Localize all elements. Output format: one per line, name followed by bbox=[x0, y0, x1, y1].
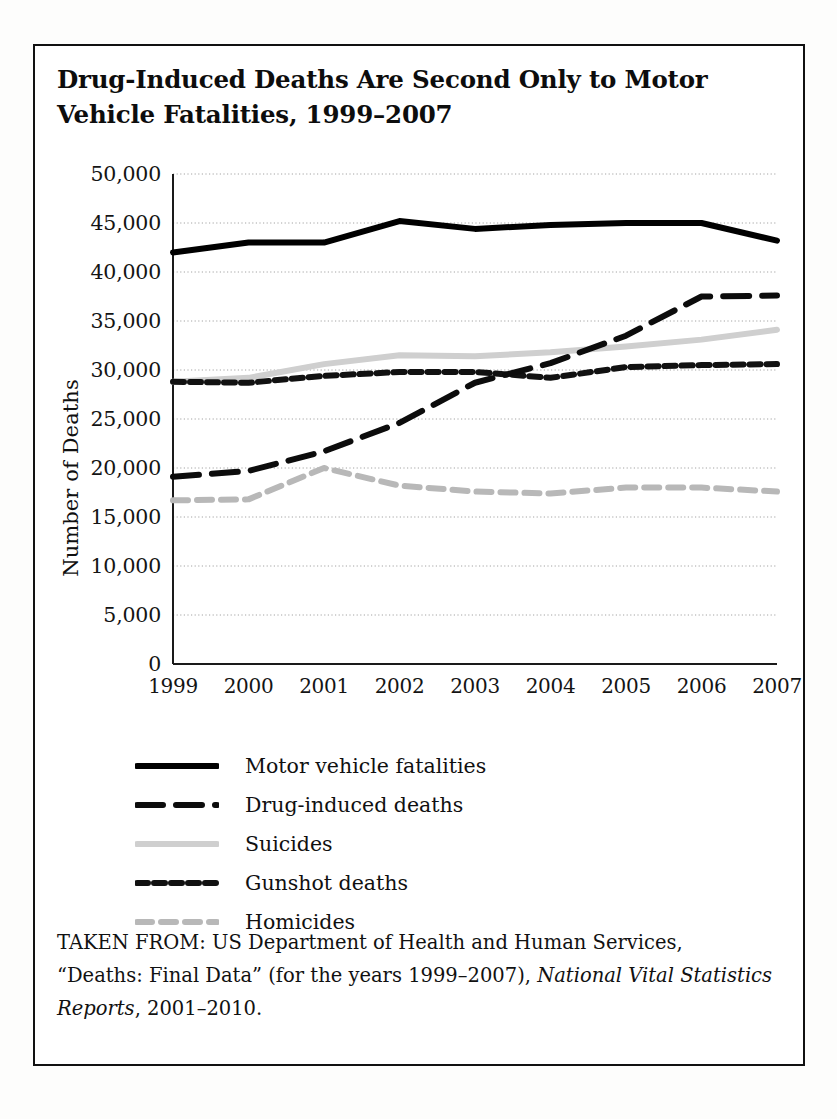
legend-item: Suicides bbox=[135, 824, 735, 863]
series-line bbox=[173, 296, 777, 477]
y-axis-tick-label: 50,000 bbox=[65, 162, 161, 186]
legend-item: Drug-induced deaths bbox=[135, 785, 735, 824]
y-axis-tick-label: 45,000 bbox=[65, 211, 161, 235]
y-axis-tick-label: 0 bbox=[65, 652, 161, 676]
y-axis-tick-label: 30,000 bbox=[65, 358, 161, 382]
chart-plot-area: Number of Deaths 50,00045,00040,00035,00… bbox=[35, 166, 803, 746]
legend-item-label: Gunshot deaths bbox=[245, 871, 408, 895]
x-axis-tick-label: 2003 bbox=[450, 674, 500, 698]
y-axis-tick-label: 35,000 bbox=[65, 309, 161, 333]
source-note-suffix: , 2001–2010. bbox=[135, 997, 263, 1020]
page-title: Drug-Induced Deaths Are Second Only to M… bbox=[57, 62, 757, 132]
legend-swatch-icon bbox=[135, 837, 219, 851]
source-note: TAKEN FROM: US Department of Health and … bbox=[57, 926, 773, 1025]
legend-item: Gunshot deaths bbox=[135, 863, 735, 902]
y-axis-tick-label: 25,000 bbox=[65, 407, 161, 431]
x-axis-tick-label: 1999 bbox=[148, 674, 198, 698]
series-line bbox=[173, 468, 777, 500]
chart-series-layer bbox=[173, 221, 777, 500]
x-axis-tick-label: 2005 bbox=[601, 674, 651, 698]
legend-item: Motor vehicle fatalities bbox=[135, 746, 735, 785]
y-axis-tick-labels: 50,00045,00040,00035,00030,00025,00020,0… bbox=[65, 166, 161, 666]
page-canvas: Drug-Induced Deaths Are Second Only to M… bbox=[0, 0, 837, 1119]
y-axis-tick-label: 10,000 bbox=[65, 554, 161, 578]
y-axis-tick-label: 40,000 bbox=[65, 260, 161, 284]
series-line bbox=[173, 330, 777, 382]
x-axis-tick-label: 2007 bbox=[752, 674, 802, 698]
y-axis-tick-label: 20,000 bbox=[65, 456, 161, 480]
legend-item-label: Motor vehicle fatalities bbox=[245, 754, 486, 778]
x-axis-tick-label: 2002 bbox=[375, 674, 425, 698]
legend-swatch-icon bbox=[135, 876, 219, 890]
y-axis-tick-label: 5,000 bbox=[65, 603, 161, 627]
x-axis-tick-label: 2006 bbox=[677, 674, 727, 698]
y-axis-tick-label: 15,000 bbox=[65, 505, 161, 529]
figure-frame: Drug-Induced Deaths Are Second Only to M… bbox=[33, 44, 805, 1066]
legend-swatch-icon bbox=[135, 798, 219, 812]
x-axis-tick-labels: 199920002001200220032004200520062007 bbox=[165, 674, 785, 708]
chart-legend: Motor vehicle fatalitiesDrug-induced dea… bbox=[135, 746, 735, 941]
legend-item-label: Drug-induced deaths bbox=[245, 793, 463, 817]
legend-swatch-icon bbox=[135, 759, 219, 773]
legend-item-label: Suicides bbox=[245, 832, 333, 856]
series-line bbox=[173, 221, 777, 252]
x-axis-tick-label: 2000 bbox=[224, 674, 274, 698]
line-chart-canvas bbox=[165, 166, 785, 676]
x-axis-tick-label: 2004 bbox=[526, 674, 576, 698]
x-axis-tick-label: 2001 bbox=[299, 674, 349, 698]
